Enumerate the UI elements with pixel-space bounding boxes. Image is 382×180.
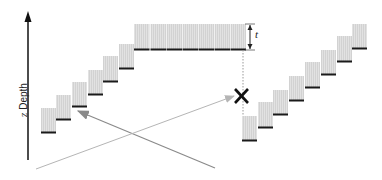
left-stair-block — [72, 82, 87, 107]
block-base-line — [119, 68, 134, 70]
top-row-block — [231, 24, 247, 50]
block-base-line — [88, 94, 103, 96]
block-base-line — [273, 114, 288, 116]
block-base-line — [167, 49, 183, 51]
axis-label-text: Depth — [18, 83, 29, 110]
block-base-line — [72, 106, 87, 108]
right-stair-block — [258, 102, 273, 128]
block-base-line — [352, 48, 367, 50]
top-row-block — [215, 24, 231, 50]
right-stair-block — [321, 50, 336, 75]
thickness-dimension — [245, 24, 255, 50]
block-base-line — [231, 49, 247, 51]
right-stair-block — [273, 90, 288, 115]
right-stair-block — [352, 24, 367, 49]
block-base-line — [242, 140, 257, 142]
left-stair-block — [56, 95, 71, 120]
block-base-line — [134, 49, 150, 51]
block-base-line — [199, 49, 215, 51]
top-row-block — [151, 24, 167, 50]
left-stair-block — [119, 44, 134, 69]
left-stair-block — [41, 108, 56, 133]
block-base-line — [305, 87, 320, 89]
left-stair-block — [88, 70, 103, 95]
left-stair-block — [103, 56, 118, 82]
right-stair-block — [289, 76, 304, 101]
axis-variable: z — [17, 113, 29, 117]
block-base-line — [258, 127, 273, 129]
block-base-line — [183, 49, 199, 51]
depth-diagram — [0, 0, 382, 180]
block-base-line — [215, 49, 231, 51]
top-row-block — [167, 24, 183, 50]
thickness-label: t — [255, 28, 258, 40]
axis-label: z Depth — [8, 70, 38, 130]
block-base-line — [56, 119, 71, 121]
right-stair-block — [242, 116, 257, 141]
axis-arrowhead-icon — [25, 11, 32, 22]
staircase-blocks — [41, 24, 367, 142]
block-base-line — [289, 100, 304, 102]
block-base-line — [41, 132, 56, 134]
top-row-block — [134, 24, 150, 50]
right-stair-block — [305, 62, 320, 88]
block-base-line — [337, 61, 352, 63]
block-base-line — [151, 49, 167, 51]
block-base-line — [103, 81, 118, 83]
top-row-block — [199, 24, 215, 50]
intersection-cross-icon — [235, 89, 248, 103]
right-stair-block — [337, 36, 352, 62]
block-base-line — [321, 74, 336, 76]
top-row-block — [183, 24, 199, 50]
ray-arrow-incoming — [78, 111, 215, 168]
